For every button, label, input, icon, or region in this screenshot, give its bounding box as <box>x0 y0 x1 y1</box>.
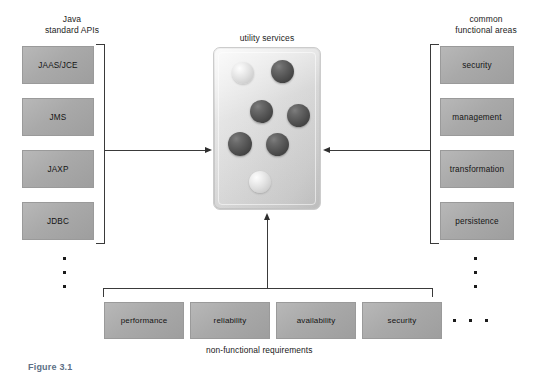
bottom-box-reliability[interactable]: reliability <box>190 302 270 339</box>
figure-container: Java standard APIs JAAS/JCE JMS JAXP JDB… <box>0 0 533 374</box>
figure-caption: Figure 3.1 <box>28 362 73 372</box>
bottom-ellipsis-dot-2 <box>469 319 472 322</box>
right-ellipsis-dot-3 <box>474 285 477 288</box>
left-box-jaas-jce-label: JAAS/JCE <box>38 61 77 70</box>
right-bracket-bottom-stub <box>430 243 439 244</box>
right-to-center-connector <box>330 150 431 151</box>
sphere-7 <box>249 171 271 193</box>
bottom-box-performance-label: performance <box>121 316 168 325</box>
left-box-jaxp-label: JAXP <box>47 165 68 174</box>
left-ellipsis-dot-1 <box>63 257 66 260</box>
right-to-center-arrowhead <box>323 147 330 153</box>
sphere-4 <box>287 104 310 127</box>
bottom-box-availability-label: availability <box>297 316 336 325</box>
left-group-caption: Java standard APIs <box>24 14 120 35</box>
right-box-persistence-label: persistence <box>455 217 499 226</box>
bottom-bracket-left-stub <box>103 288 104 297</box>
left-box-jaas-jce[interactable]: JAAS/JCE <box>22 46 94 84</box>
left-bracket-top-stub <box>96 44 105 45</box>
right-box-management-label: management <box>452 113 501 122</box>
left-to-center-connector <box>104 150 206 151</box>
bottom-ellipsis-dot-1 <box>453 319 456 322</box>
left-box-jms-label: JMS <box>50 113 67 122</box>
left-box-jdbc-label: JDBC <box>47 217 69 226</box>
left-bracket-bottom-stub <box>96 243 105 244</box>
bottom-to-center-connector <box>267 220 268 289</box>
sphere-2 <box>271 60 294 83</box>
right-box-transformation-label: transformation <box>450 165 504 174</box>
bottom-box-availability[interactable]: availability <box>276 302 356 339</box>
right-box-persistence[interactable]: persistence <box>440 202 514 240</box>
sphere-6 <box>266 133 289 156</box>
utility-services-title: utility services <box>217 33 317 44</box>
right-bracket-top-stub <box>430 44 439 45</box>
left-ellipsis-dot-3 <box>63 285 66 288</box>
right-box-security-label: security <box>462 61 491 70</box>
right-bracket-spine <box>430 44 431 244</box>
bottom-bracket-right-stub <box>432 288 433 297</box>
sphere-3 <box>250 100 273 123</box>
sphere-5 <box>228 132 252 156</box>
bottom-group-caption: non-functional requirements <box>206 345 313 355</box>
bottom-to-center-arrowhead <box>264 213 270 220</box>
left-bracket-spine <box>104 44 105 244</box>
right-ellipsis-dot-1 <box>474 257 477 260</box>
left-to-center-arrowhead <box>205 147 212 153</box>
bottom-bracket-spine <box>103 288 433 289</box>
bottom-box-performance[interactable]: performance <box>104 302 184 339</box>
left-box-jms[interactable]: JMS <box>22 98 94 136</box>
bottom-ellipsis-dot-3 <box>485 319 488 322</box>
utility-services-panel[interactable] <box>213 47 321 210</box>
bottom-box-security-label: security <box>388 316 417 325</box>
left-box-jaxp[interactable]: JAXP <box>22 150 94 188</box>
right-ellipsis-dot-2 <box>474 271 477 274</box>
left-ellipsis-dot-2 <box>63 271 66 274</box>
bottom-box-security[interactable]: security <box>362 302 442 339</box>
sphere-1 <box>232 62 254 84</box>
left-box-jdbc[interactable]: JDBC <box>22 202 94 240</box>
right-box-security[interactable]: security <box>440 46 514 84</box>
bottom-box-reliability-label: reliability <box>214 316 247 325</box>
right-group-caption: common functional areas <box>440 14 532 35</box>
right-box-transformation[interactable]: transformation <box>440 150 514 188</box>
right-box-management[interactable]: management <box>440 98 514 136</box>
